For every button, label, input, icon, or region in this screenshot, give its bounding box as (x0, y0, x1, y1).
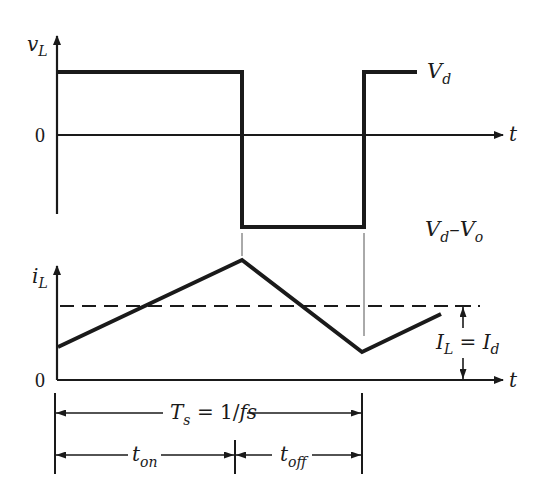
current-zero-label: 0 (35, 369, 45, 391)
average-current-label: IL = Id (435, 330, 500, 357)
voltage-waveform (58, 72, 417, 227)
period-label: Ts = 1/fs (170, 400, 257, 428)
voltage-time-label: t (509, 122, 518, 146)
off-time-label: toff (280, 442, 308, 470)
waveform-figure: vL 0 t Vd Vd–Vo (0, 0, 541, 502)
vd-level-label: Vd (427, 59, 451, 87)
voltage-plot: vL 0 t Vd Vd–Vo (27, 32, 518, 245)
current-axis-label: iL (32, 264, 48, 291)
on-time-label: ton (132, 442, 158, 470)
current-plot: iL 0 t IL = Id (32, 260, 518, 392)
current-time-label: t (509, 368, 518, 392)
timing-dimensions: Ts = 1/fs ton toff (55, 393, 362, 474)
vd-minus-vo-label: Vd–Vo (425, 217, 483, 245)
voltage-axis-label: vL (27, 32, 48, 59)
voltage-zero-label: 0 (35, 124, 45, 146)
